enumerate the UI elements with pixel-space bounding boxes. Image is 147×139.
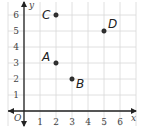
point-c-label: C: [42, 8, 51, 22]
y-tick-label: 6: [13, 10, 19, 20]
coordinate-plane: 123456123456 y x O ABCD: [0, 0, 147, 139]
x-tick-label: 2: [53, 117, 59, 127]
point-c-marker: [54, 13, 58, 17]
x-tick-label: 3: [69, 117, 75, 127]
x-tick-label: 1: [37, 117, 43, 127]
x-tick-label: 4: [85, 117, 91, 127]
point-d-label: D: [108, 17, 117, 31]
y-axis-down-arrow-icon: [21, 121, 27, 127]
y-tick-label: 5: [13, 26, 19, 36]
tick-labels: 123456123456: [13, 10, 123, 127]
x-tick-label: 5: [101, 117, 107, 127]
y-axis-up-arrow-icon: [21, 1, 27, 7]
axes: [8, 1, 137, 127]
point-d-marker: [102, 29, 106, 33]
point-a-label: A: [41, 50, 50, 64]
x-axis-label: x: [131, 113, 136, 123]
point-a-marker: [54, 61, 58, 65]
y-tick-label: 2: [13, 74, 19, 84]
x-tick-label: 6: [117, 117, 123, 127]
point-b-label: B: [76, 77, 84, 91]
y-tick-label: 1: [13, 90, 19, 100]
origin-label: O: [14, 113, 22, 123]
point-b-marker: [70, 77, 74, 81]
data-points: ABCD: [41, 8, 117, 91]
y-tick-label: 3: [13, 58, 19, 68]
y-axis-label: y: [28, 0, 35, 10]
y-tick-label: 4: [13, 42, 19, 52]
